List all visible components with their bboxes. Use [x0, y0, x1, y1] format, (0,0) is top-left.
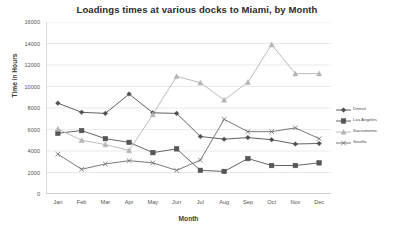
series-line [58, 94, 319, 144]
plot-area [46, 22, 331, 194]
data-point [222, 117, 227, 122]
y-tick-label: 12000 [24, 62, 40, 68]
series-line [58, 119, 319, 170]
y-axis-ticks: 0200040006000800010000120001400016000 [0, 22, 44, 194]
data-point [56, 152, 61, 157]
data-point [341, 118, 346, 123]
series-detroit [56, 92, 322, 147]
data-point [151, 150, 156, 155]
x-tick-label: Feb [77, 199, 87, 205]
data-point [56, 131, 61, 136]
y-tick-label: 6000 [28, 127, 40, 133]
data-point [317, 136, 322, 141]
x-tick-label: Apr [125, 199, 134, 205]
legend-square-icon [336, 117, 351, 125]
data-point [317, 141, 322, 146]
legend-item-seattle[interactable]: Seattle [336, 137, 392, 148]
legend-item-sacramento[interactable]: Sacramento [336, 126, 392, 137]
data-point [79, 138, 84, 143]
data-point [269, 137, 274, 142]
x-tick-label: Oct [267, 199, 276, 205]
data-point [127, 140, 132, 145]
x-axis-ticks: JanFebMarAprMayJunJulAugSepOctNovDec [46, 196, 331, 208]
series-line [58, 45, 319, 151]
x-tick-label: Mar [101, 199, 111, 205]
y-tick-label: 4000 [28, 148, 40, 154]
data-point [341, 107, 346, 112]
data-point [174, 74, 179, 79]
x-tick-label: May [148, 199, 159, 205]
y-tick-label: 10000 [24, 84, 40, 90]
data-point [174, 168, 179, 173]
y-tick-label: 14000 [24, 41, 40, 47]
data-point [293, 163, 298, 168]
data-point [198, 168, 203, 173]
x-tick-label: Jun [172, 199, 181, 205]
gridlines [46, 22, 331, 194]
legend-triangle-icon [336, 128, 351, 136]
legend-label: Sacramento [353, 129, 377, 133]
x-tick-label: Sep [243, 199, 253, 205]
data-point [246, 135, 251, 140]
data-point [246, 156, 251, 161]
legend-diamond-icon [336, 106, 351, 114]
data-point [222, 137, 227, 142]
x-axis-title: Month [46, 215, 331, 222]
data-point [269, 42, 274, 47]
data-point [103, 136, 108, 141]
y-tick-label: 16000 [24, 19, 40, 25]
legend-label: Seattle [353, 140, 367, 144]
data-point [79, 128, 84, 133]
data-point [317, 161, 322, 166]
data-point [56, 101, 61, 106]
x-tick-label: Dec [314, 199, 324, 205]
legend-item-detroit[interactable]: Detroit [336, 104, 392, 115]
plot-svg [46, 22, 331, 194]
legend-label: Detroit [353, 107, 366, 111]
data-point [222, 169, 227, 174]
line-chart: Loadings times at various docks to Miami… [0, 0, 394, 242]
x-tick-label: Jul [197, 199, 204, 205]
chart-legend: DetroitLos AngelesSacramentoSeattle [336, 104, 392, 148]
y-tick-label: 2000 [28, 170, 40, 176]
x-tick-label: Aug [219, 199, 229, 205]
data-point [198, 158, 203, 163]
series-sacramento [55, 42, 321, 153]
legend-label: Los Angeles [353, 118, 377, 122]
data-point [245, 80, 250, 85]
y-tick-label: 0 [37, 191, 40, 197]
data-point [79, 110, 84, 115]
legend-item-los-angeles[interactable]: Los Angeles [336, 115, 392, 126]
data-point [269, 163, 274, 168]
x-tick-label: Nov [290, 199, 300, 205]
chart-title: Loadings times at various docks to Miami… [0, 4, 394, 15]
x-tick-label: Jan [53, 199, 62, 205]
y-tick-label: 8000 [28, 105, 40, 111]
data-point [55, 126, 60, 131]
legend-cross-icon [336, 139, 351, 147]
data-point [174, 147, 179, 152]
data-point [293, 142, 298, 147]
